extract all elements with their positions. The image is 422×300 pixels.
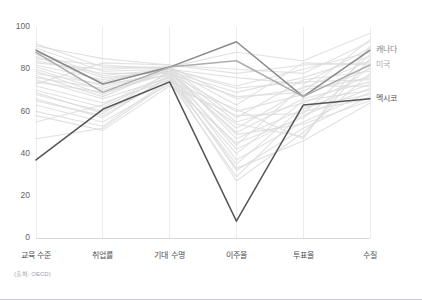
y-axis-tick-label: 0 [25,232,30,242]
parallel-coordinates-svg: 020406080100 교육 수준취업률기대 수명이주율투표율수질 캐나다미국… [0,0,422,292]
chart-screenshot-root: 020406080100 교육 수준취업률기대 수명이주율투표율수질 캐나다미국… [0,0,422,300]
y-axis-tick-label: 100 [16,21,30,31]
y-axis-tick-labels: 020406080100 [16,21,30,242]
series-inline-label[interactable]: 미국 [376,60,390,69]
x-axis-tick-labels: 교육 수준취업률기대 수명이주율투표율수질 [21,250,377,260]
series-labels-group: 캐나다미국멕시코 [376,45,398,103]
parallel-coordinates-chart-card: 020406080100 교육 수준취업률기대 수명이주율투표율수질 캐나다미국… [0,0,422,292]
y-axis-tick-label: 60 [21,106,31,116]
x-axis-category-label: 수질 [363,251,377,260]
series-inline-label[interactable]: 멕시코 [376,93,397,103]
x-axis-category-label: 교육 수준 [21,251,51,260]
series-line-background [36,33,370,67]
series-inline-label[interactable]: 캐나다 [376,45,398,54]
y-axis-tick-label: 40 [21,148,31,158]
y-axis-tick-label: 80 [21,63,31,73]
x-axis-category-label: 투표율 [293,251,314,260]
x-axis-category-label: 취업률 [92,251,113,260]
x-axis-category-label: 이주율 [226,250,247,260]
x-axis-category-label: 기대 수명 [154,250,184,260]
background-series-group [36,33,370,181]
gridlines-group [36,27,370,238]
y-axis-tick-label: 20 [21,190,31,200]
source-note: (출처: OECD) [14,270,51,278]
